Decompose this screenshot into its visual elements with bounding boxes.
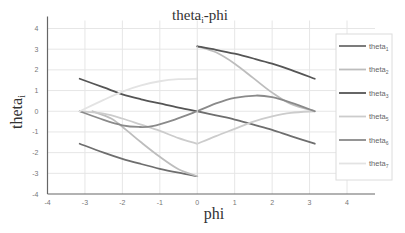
y-tick-label: 4 [35,25,39,32]
x-tick-label: -3 [82,199,88,206]
x-tick-label: -1 [157,199,163,206]
y-tick-label: 1 [35,87,39,94]
x-tick-label: 3 [308,199,312,206]
grid [48,21,376,195]
x-tick-label: 4 [345,199,349,206]
x-tick-label: 1 [233,199,237,206]
series-line-theta3 [80,79,198,111]
y-tick-label: 3 [35,46,39,53]
y-tick-label: -1 [32,128,38,135]
y-tick-label: -3 [32,170,38,177]
y-axis-label: thetai [8,95,27,129]
legend: theta1theta2theta3theta5theta6theta7 [336,34,392,180]
x-tick-label: -2 [119,199,125,206]
x-tick-label: 0 [195,199,199,206]
series-line-theta2 [197,46,315,111]
y-tick-label: -4 [32,191,38,198]
x-tick-label: -4 [44,199,50,206]
chart: -4-3-2-101234-4-3-2-101234 thetai-phi ph… [0,0,405,233]
y-tick-label: 0 [35,108,39,115]
series-line-theta1 [80,144,198,176]
tick-labels: -4-3-2-101234-4-3-2-101234 [32,25,349,206]
y-tick-label: -2 [32,149,38,156]
series-line-theta7 [80,79,198,111]
chart-title: thetai-phi [172,7,228,25]
x-axis-label: phi [204,205,225,223]
series-theta7 [80,79,198,111]
series-line-theta1 [197,111,315,143]
series-line-theta6 [197,96,315,112]
y-tick-label: 2 [35,66,39,73]
x-tick-label: 2 [270,199,274,206]
